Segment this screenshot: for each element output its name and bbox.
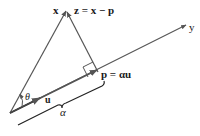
projection-diagram: x z = x − p y p = αu u θ α bbox=[0, 0, 200, 136]
label-p: p = αu bbox=[101, 69, 131, 80]
vector-x bbox=[10, 11, 66, 113]
label-alpha: α bbox=[60, 107, 66, 118]
vector-z bbox=[67, 12, 98, 72]
diagram-canvas bbox=[0, 0, 200, 136]
label-x: x bbox=[53, 5, 59, 16]
label-theta: θ bbox=[25, 92, 30, 102]
label-u: u bbox=[45, 95, 51, 105]
label-y: y bbox=[189, 22, 195, 33]
angle-theta-arc bbox=[20, 94, 23, 107]
label-z: z = x − p bbox=[74, 5, 114, 16]
